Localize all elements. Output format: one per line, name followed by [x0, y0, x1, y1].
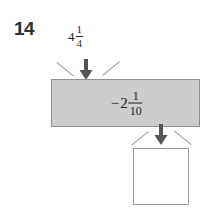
input-whole-number: 4 — [68, 30, 76, 43]
problem-number: 14 — [14, 19, 34, 38]
input-fraction: 1 4 — [76, 24, 84, 49]
operation-fraction-numerator: 1 — [132, 90, 140, 103]
answer-input-box[interactable] — [133, 148, 189, 205]
input-mixed-number: 4 1 4 — [68, 24, 83, 49]
input-value-label: 4 1 4 — [68, 24, 83, 49]
operation-fraction-denominator: 10 — [129, 103, 143, 117]
funnel-line-top-right — [102, 61, 120, 76]
funnel-line-bottom-left — [131, 131, 149, 146]
funnel-line-top-left — [56, 62, 74, 77]
operation-whole-number: 2 — [120, 96, 129, 111]
worksheet-problem-canvas: 14 4 1 4 − 2 1 10 — [0, 0, 210, 212]
operation-fraction: 1 10 — [129, 90, 143, 117]
arrow-down-icon-output — [154, 124, 168, 146]
input-fraction-denominator: 4 — [76, 36, 84, 49]
funnel-line-bottom-right — [174, 130, 192, 145]
function-machine-body: − 2 1 10 — [51, 79, 200, 127]
operation-label: − 2 1 10 — [111, 90, 143, 117]
input-fraction-numerator: 1 — [76, 24, 84, 36]
operation-mixed-number: − 2 1 10 — [111, 90, 143, 117]
operation-sign: − — [111, 96, 120, 111]
answer-value[interactable] — [134, 149, 188, 204]
arrow-down-icon-input — [79, 59, 93, 81]
